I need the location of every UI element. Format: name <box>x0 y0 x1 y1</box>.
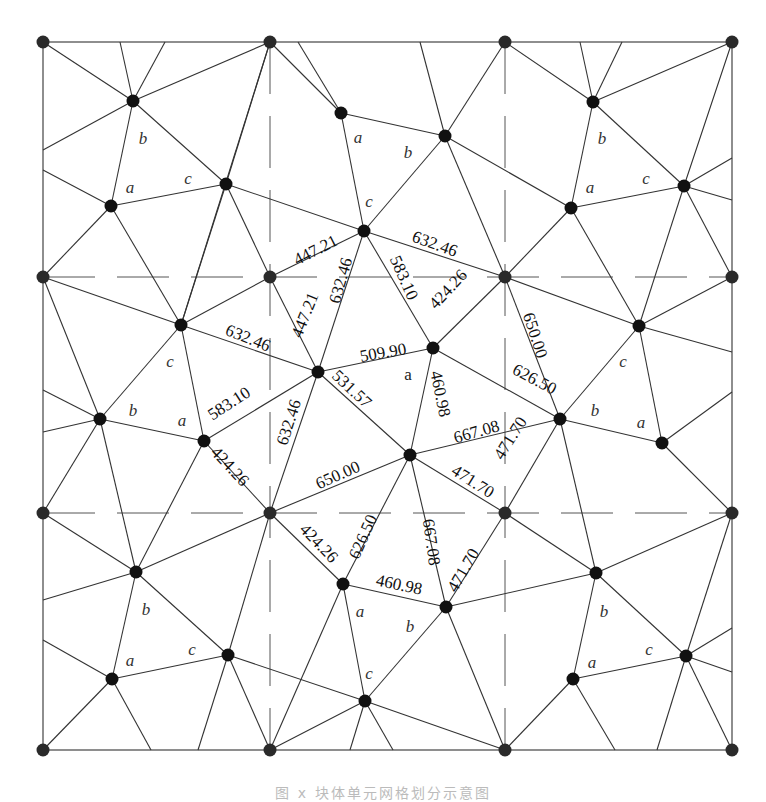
mesh-node-g11 <box>264 271 277 284</box>
mesh-edge <box>43 572 136 600</box>
mesh-edge <box>684 186 732 277</box>
mesh-edge <box>639 186 684 326</box>
outer-border <box>43 42 732 750</box>
mesh-edge <box>43 277 181 325</box>
mesh-edge <box>43 206 111 277</box>
mesh-edge <box>505 208 571 277</box>
mesh-node-g10 <box>264 36 277 49</box>
edge-length-label: 632.46 <box>410 227 460 261</box>
mesh-edge <box>560 419 662 443</box>
edge-length-label: 650.00 <box>519 310 552 360</box>
mesh-node-K3 <box>680 650 693 663</box>
mesh-edge <box>120 42 133 101</box>
mesh-edge <box>580 42 593 102</box>
mesh-node-g00 <box>37 36 50 49</box>
mesh-edge <box>270 584 343 750</box>
vertex-label-b: b <box>404 143 413 162</box>
mesh-node-J3 <box>359 695 372 708</box>
figure-caption: 图 x 块体单元网格划分示意图 <box>0 782 766 802</box>
vertex-label-b: b <box>139 129 148 148</box>
mesh-node-H1 <box>633 320 646 333</box>
vertex-label-a: a <box>637 413 646 432</box>
mesh-edge <box>226 184 364 231</box>
edge-length-label: 632.46 <box>325 255 356 305</box>
mesh-node-g22 <box>499 507 512 520</box>
mesh-edge <box>596 513 732 573</box>
vertex-label-c: c <box>166 352 174 371</box>
mesh-node-g31 <box>726 271 739 284</box>
vertex-label-a: a <box>356 602 365 621</box>
mesh-node-I2 <box>106 673 119 686</box>
edge-length-label: 650.00 <box>313 457 363 493</box>
mesh-edge <box>593 102 684 186</box>
mesh-edge <box>505 42 593 102</box>
mesh-node-J1 <box>337 578 350 591</box>
vertex-label-c: c <box>184 169 192 188</box>
mesh-edge <box>43 679 112 750</box>
mesh-node-J2 <box>440 601 453 614</box>
mesh-node-C3 <box>678 180 691 193</box>
vertex-label-c: c <box>365 192 373 211</box>
mesh-edge <box>593 42 622 102</box>
mesh-edge <box>420 42 445 136</box>
edge-length-label: 424.26 <box>296 520 342 567</box>
mesh-node-D3 <box>198 435 211 448</box>
mesh-edge <box>571 208 639 326</box>
mesh-edge <box>43 101 133 150</box>
vertex-label-c: c <box>645 640 653 659</box>
mesh-edge <box>43 640 112 679</box>
mesh-edge <box>365 701 393 750</box>
mesh-edge <box>445 136 571 208</box>
mesh-edge <box>560 419 596 573</box>
mesh-node-B1 <box>335 107 348 120</box>
mesh-node-B2 <box>439 130 452 143</box>
mesh-edge <box>100 419 136 572</box>
edge-length-label: 632.46 <box>273 397 306 447</box>
vertex-label-b: b <box>406 617 415 636</box>
mesh-edge <box>686 513 732 656</box>
vertex-label-a: a <box>126 178 135 197</box>
mesh-node-I1 <box>130 566 143 579</box>
mesh-edge <box>684 42 732 186</box>
edge-length-label: 632.46 <box>223 320 273 355</box>
mesh-edge <box>136 441 204 572</box>
mesh-node-g12 <box>264 507 277 520</box>
mesh-edge <box>505 679 573 750</box>
mesh-edge <box>43 513 136 572</box>
mesh-node-g30 <box>726 36 739 49</box>
mesh-edge <box>100 419 204 441</box>
edge-length-label: 460.98 <box>426 369 454 419</box>
edge-length-label: 471.70 <box>443 545 483 595</box>
mesh-edge <box>560 326 639 419</box>
mesh-edge <box>684 186 732 200</box>
mesh-edge <box>657 656 686 750</box>
mesh-edge <box>318 372 410 455</box>
mesh-edge <box>43 419 100 432</box>
mesh-edge <box>228 513 270 655</box>
vertex-label-c: c <box>619 352 627 371</box>
mesh-edge <box>593 42 732 102</box>
vertex-label-a: a <box>586 178 595 197</box>
mesh-edge <box>43 42 133 101</box>
mesh-node-g21 <box>499 271 512 284</box>
mesh-edge <box>573 679 615 750</box>
mesh-node-A3 <box>220 178 233 191</box>
mesh-edge <box>350 701 365 750</box>
mesh-node-g32 <box>726 507 739 520</box>
mesh-edge <box>43 170 111 206</box>
mesh-edge <box>410 348 433 455</box>
mesh-node-C1 <box>587 96 600 109</box>
mesh-edge <box>270 42 341 113</box>
edge-length-label: 531.57 <box>328 366 376 412</box>
grid-dashed-lines <box>43 42 732 750</box>
vertex-label-a: a <box>588 653 597 672</box>
vertex-label-c: c <box>642 169 650 188</box>
mesh-node-g13 <box>264 744 277 757</box>
mesh-edge <box>686 628 732 656</box>
edge-length-label: 667.08 <box>419 518 444 567</box>
edge-length-label: 424.26 <box>425 266 471 313</box>
vertex-label-b: b <box>129 401 138 420</box>
mesh-node-g02 <box>37 507 50 520</box>
mesh-node-I3 <box>222 649 235 662</box>
edge-length-label: 509.90 <box>358 339 407 366</box>
